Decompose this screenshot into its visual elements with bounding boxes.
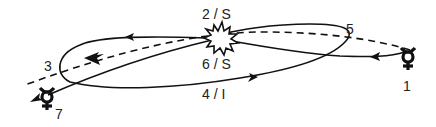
label-point-2: 2 / S — [202, 6, 231, 22]
label-point-5: 5 — [346, 21, 354, 37]
label-point-3: 3 — [44, 58, 52, 74]
orbit-direction-arrow-icon — [84, 52, 104, 65]
label-point-7: 7 — [55, 106, 63, 122]
label-point-1: 1 — [403, 78, 411, 94]
label-point-6: 6 / S — [202, 56, 231, 72]
trajectory-diagram: 1 2 / S 3 4 / I 5 6 / S 7 — [0, 0, 436, 127]
starburst-icon — [204, 22, 238, 55]
mercury-symbol-end — [40, 88, 54, 110]
mercury-symbol-start — [401, 48, 415, 70]
label-point-4: 4 / I — [202, 86, 225, 102]
